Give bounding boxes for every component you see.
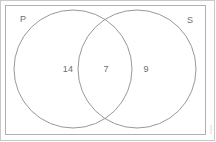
set-label-s: S xyxy=(187,16,193,25)
region-value-only-p: 14 xyxy=(57,65,79,74)
venn-diagram-figure: P S 14 7 9 www xyxy=(0,0,216,142)
region-value-intersection: 7 xyxy=(96,65,116,74)
set-label-p: P xyxy=(20,15,26,24)
watermark-text: www xyxy=(209,125,213,135)
region-value-only-s: 9 xyxy=(136,65,156,74)
